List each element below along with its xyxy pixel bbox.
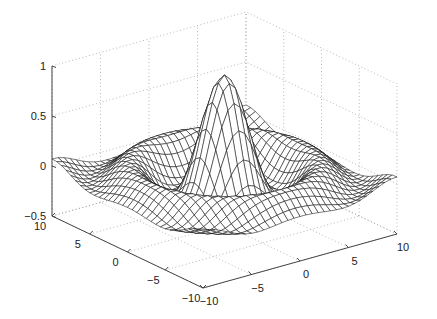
sinc-surface-plot: −0.500.51−10−50510−10−50510 (0, 0, 437, 319)
x-tick-label: 10 (397, 241, 409, 253)
x-tick (394, 231, 397, 234)
x-tick-label: 0 (303, 268, 309, 280)
x-tick-label: 5 (351, 255, 357, 267)
z-tick-label: 0 (40, 160, 46, 172)
wall-grid-line (52, 12, 246, 66)
y-tick-label: −10 (182, 292, 201, 304)
z-tick (52, 66, 56, 68)
z-tick (52, 166, 56, 168)
z-tick (52, 116, 56, 118)
x-tick (297, 258, 300, 261)
x-tick (346, 245, 349, 248)
y-tick-label: 10 (34, 220, 46, 232)
x-tick-label: −10 (200, 295, 219, 307)
y-tick-label: 0 (112, 256, 118, 268)
z-tick-label: 1 (40, 60, 46, 72)
y-tick (128, 249, 131, 252)
wall-grid-line (246, 62, 397, 134)
wall-grid-line (246, 12, 397, 84)
z-tick (52, 216, 56, 218)
mesh-surface (52, 75, 397, 234)
y-tick (90, 231, 93, 234)
x-tick (249, 272, 252, 275)
x-tick-label: −5 (251, 282, 264, 294)
y-tick-label: 5 (75, 238, 81, 250)
y-tick (165, 267, 168, 270)
y-tick-label: −5 (147, 274, 160, 286)
z-tick-label: 0.5 (31, 110, 46, 122)
